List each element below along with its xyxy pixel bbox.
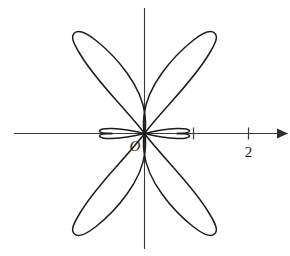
x-tick-label-2: 2 bbox=[245, 144, 253, 160]
x-axis-arrow-icon bbox=[277, 129, 288, 139]
plot-canvas: O 2 bbox=[0, 0, 290, 256]
origin-label: O bbox=[130, 138, 141, 154]
rose-curve-path-2 bbox=[143, 32, 216, 134]
rose-curve-figure: O 2 bbox=[0, 0, 290, 256]
rose-curve-path-4 bbox=[143, 134, 216, 236]
rose-pinch-right bbox=[145, 128, 190, 133]
rose-pinch-left bbox=[100, 128, 145, 133]
rose-curve-path bbox=[73, 32, 146, 134]
rose-pinch-right-lower bbox=[145, 134, 190, 139]
